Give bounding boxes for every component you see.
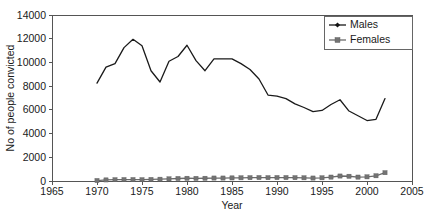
data-point-females (230, 176, 234, 180)
data-point-females (176, 176, 180, 180)
x-tick-label: 1965 (40, 185, 64, 197)
data-point-females (248, 176, 252, 180)
data-point-females (383, 171, 387, 175)
x-tick-label: 2005 (400, 185, 424, 197)
x-axis-title: Year (221, 199, 243, 211)
data-point-females (149, 177, 153, 181)
data-point-females (95, 178, 99, 182)
data-point-females (131, 177, 135, 181)
data-point-females (266, 176, 270, 180)
data-point-females (122, 177, 126, 181)
data-point-females (239, 176, 243, 180)
data-point-females (194, 176, 198, 180)
x-tick-label: 1985 (220, 185, 244, 197)
data-point-females (113, 178, 117, 182)
data-point-females (140, 178, 144, 182)
y-tick-label: 8000 (23, 80, 47, 92)
data-point-females (320, 176, 324, 180)
data-point-females (275, 175, 279, 179)
legend-item-males-label: Males (350, 18, 378, 30)
data-point-females (212, 176, 216, 180)
x-tick-label: 1995 (310, 185, 334, 197)
legend-item-females-marker (335, 38, 340, 43)
x-tick-label: 1990 (265, 185, 289, 197)
data-point-females (347, 174, 351, 178)
y-tick-label: 2000 (23, 151, 47, 163)
y-tick-label: 12000 (17, 32, 46, 44)
y-tick-label: 6000 (23, 103, 47, 115)
data-point-females (293, 176, 297, 180)
data-point-females (338, 174, 342, 178)
x-tick-label: 1975 (130, 185, 154, 197)
x-tick-label: 1980 (175, 185, 199, 197)
data-point-females (185, 176, 189, 180)
y-tick-label: 4000 (23, 127, 47, 139)
data-point-females (356, 175, 360, 179)
data-point-females (284, 175, 288, 179)
chart-figure: 0200040006000800010000120001400019651970… (0, 0, 429, 217)
y-tick-label: 10000 (17, 56, 46, 68)
series-line-males (97, 39, 385, 120)
y-axis-title: No of people convicted (4, 44, 16, 151)
legend-item-females-label: Females (350, 33, 390, 45)
data-point-females (311, 176, 315, 180)
data-point-females (302, 176, 306, 180)
data-point-females (365, 175, 369, 179)
y-tick-label: 14000 (17, 9, 46, 21)
data-point-females (167, 177, 171, 181)
data-point-females (203, 176, 207, 180)
data-point-females (104, 178, 108, 182)
data-point-females (257, 175, 261, 179)
data-point-females (158, 177, 162, 181)
line-chart: 0200040006000800010000120001400019651970… (0, 0, 429, 217)
data-point-females (374, 174, 378, 178)
x-tick-label: 2000 (355, 185, 379, 197)
data-point-females (329, 175, 333, 179)
x-tick-label: 1970 (85, 185, 109, 197)
data-point-females (221, 176, 225, 180)
